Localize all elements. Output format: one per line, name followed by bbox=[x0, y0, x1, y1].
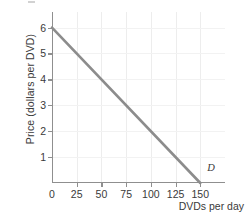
y-tick-label: 4 bbox=[40, 73, 46, 85]
y-tick-label: 2 bbox=[40, 125, 46, 137]
y-tick-label: 5 bbox=[40, 47, 46, 59]
page-crop-artifact bbox=[28, 1, 35, 3]
y-tick-label: 6 bbox=[40, 22, 46, 34]
x-tick-label: 75 bbox=[120, 188, 132, 200]
x-tick-label: 125 bbox=[167, 188, 185, 200]
demand-curve-figure: Price (dollars per DVD) 123456 025507510… bbox=[0, 0, 250, 222]
x-tick-label: 50 bbox=[96, 188, 108, 200]
x-tick-label: 25 bbox=[71, 188, 83, 200]
curve-label-d: D bbox=[207, 162, 215, 173]
y-tick-label: 1 bbox=[40, 151, 46, 163]
series-layer bbox=[52, 12, 225, 183]
y-tick-label: 3 bbox=[40, 99, 46, 111]
x-axis-title: DVDs per day bbox=[0, 200, 244, 212]
y-axis-title: Price (dollars per DVD) bbox=[24, 4, 36, 174]
demand-curve-line bbox=[52, 28, 200, 183]
x-tick-label: 150 bbox=[192, 188, 210, 200]
x-tick-label: 0 bbox=[49, 188, 55, 200]
x-tick-label: 100 bbox=[142, 188, 160, 200]
plot-area: 123456 0255075100125150 D bbox=[52, 12, 225, 183]
